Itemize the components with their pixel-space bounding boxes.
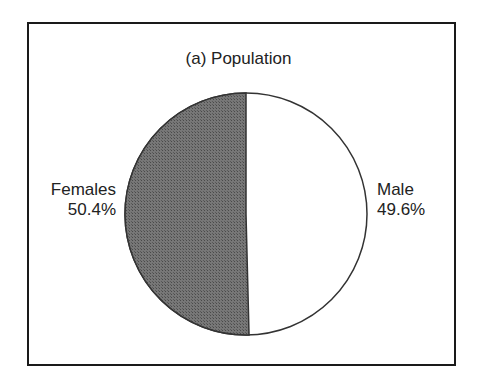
male-label: Male 49.6%: [377, 180, 425, 220]
females-label: Females 50.4%: [30, 180, 116, 220]
male-name: Male: [377, 180, 425, 200]
pie-slice-females: [125, 93, 249, 335]
male-percent: 49.6%: [377, 200, 425, 220]
females-percent: 50.4%: [30, 200, 116, 220]
females-name: Females: [30, 180, 116, 200]
